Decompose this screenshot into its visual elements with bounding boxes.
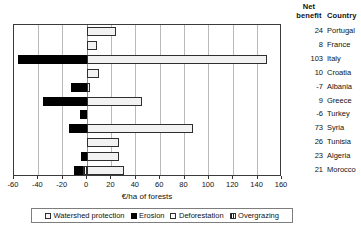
x-tick-0 [86, 176, 87, 179]
x-tick-label-160: 160 [268, 180, 294, 189]
net-benefit-header-line1: Net [289, 2, 329, 11]
net-benefit-value: 24 [289, 26, 323, 35]
bar-segment-erosion [71, 83, 87, 92]
legend-label-watershed: Watershed protection [54, 211, 125, 220]
net-benefit-value: 10 [289, 68, 323, 77]
country-label: Algeria [327, 151, 361, 160]
bar-segment-erosion [18, 55, 87, 64]
net-benefit-value: 103 [289, 54, 323, 63]
x-tick-label--20: -20 [49, 180, 75, 189]
x-tick-160 [281, 176, 282, 179]
bar-row [14, 166, 280, 175]
x-tick-label--40: -40 [24, 180, 50, 189]
bar-row [14, 152, 280, 161]
legend-swatch-deforestation [170, 213, 176, 219]
net-benefit-value: 73 [289, 123, 323, 132]
bar-segment-watershed [87, 138, 119, 147]
x-axis-title: €/ha of forests [13, 192, 281, 202]
x-tick--40 [37, 176, 38, 179]
net-benefit-value: -7 [289, 82, 323, 91]
bar-segment-erosion [80, 110, 87, 119]
x-tick-label-80: 80 [171, 180, 197, 189]
net-benefit-value: 26 [289, 137, 323, 146]
country-label: France [327, 40, 361, 49]
bars-layer [14, 25, 280, 175]
x-tick--60 [13, 176, 14, 179]
x-tick-label-60: 60 [146, 180, 172, 189]
country-label: Tunisia [327, 137, 361, 146]
bar-segment-erosion [69, 124, 87, 133]
x-tick-20 [110, 176, 111, 179]
country-label: Croatia [327, 68, 361, 77]
country-column-header: Country [327, 11, 361, 20]
legend-item-erosion: Erosion [131, 211, 165, 220]
chart-legend: Watershed protectionErosionDeforestation… [31, 208, 293, 223]
x-tick-40 [135, 176, 136, 179]
x-tick-140 [257, 176, 258, 179]
x-tick-label--60: -60 [0, 180, 26, 189]
x-tick-100 [208, 176, 209, 179]
bar-segment-watershed [87, 69, 99, 78]
bar-segment-watershed [87, 55, 267, 64]
bar-row [14, 97, 280, 106]
x-tick-60 [159, 176, 160, 179]
bar-row [14, 110, 280, 119]
bar-row [14, 55, 280, 64]
bar-segment-erosion [74, 166, 84, 175]
x-tick-120 [232, 176, 233, 179]
legend-label-deforestation: Deforestation [179, 211, 224, 220]
bar-segment-watershed [87, 124, 193, 133]
legend-swatch-erosion [131, 213, 137, 219]
bar-segment-erosion [43, 97, 87, 106]
x-tick-label-140: 140 [244, 180, 270, 189]
legend-item-watershed: Watershed protection [45, 211, 125, 220]
x-tick-label-20: 20 [97, 180, 123, 189]
x-tick-label-0: 0 [73, 180, 99, 189]
bar-row [14, 27, 280, 36]
x-tick-80 [184, 176, 185, 179]
country-label: Greece [327, 96, 361, 105]
bar-segment-watershed [87, 27, 116, 36]
x-tick--20 [62, 176, 63, 179]
bar-segment-watershed [87, 83, 89, 92]
net-benefit-forests-chart: Net benefit Country -60-40-2002040608010… [0, 0, 361, 230]
net-benefit-header-line2: benefit [289, 11, 329, 20]
country-label: Turkey [327, 109, 361, 118]
net-benefit-column-header: Net benefit [289, 2, 329, 20]
bar-row [14, 69, 280, 78]
net-benefit-value: 23 [289, 151, 323, 160]
country-label: Portugal [327, 26, 361, 35]
net-benefit-value: 8 [289, 40, 323, 49]
x-tick-label-40: 40 [122, 180, 148, 189]
legend-swatch-watershed [45, 213, 51, 219]
bar-row [14, 138, 280, 147]
legend-item-overgrazing: Overgrazing [230, 211, 279, 220]
legend-label-overgrazing: Overgrazing [238, 211, 279, 220]
net-benefit-value: 21 [289, 165, 323, 174]
x-tick-label-120: 120 [219, 180, 245, 189]
plot-area [13, 24, 281, 176]
country-label: Italy [327, 54, 361, 63]
net-benefit-value: -6 [289, 109, 323, 118]
bar-segment-watershed [87, 166, 124, 175]
bar-row [14, 83, 280, 92]
legend-item-deforestation: Deforestation [170, 211, 223, 220]
country-label: Syria [327, 123, 361, 132]
bar-row [14, 124, 280, 133]
legend-swatch-overgrazing [230, 213, 236, 219]
bar-segment-watershed [87, 41, 97, 50]
bar-row [14, 41, 280, 50]
country-label: Albania [327, 82, 361, 91]
x-tick-label-100: 100 [195, 180, 221, 189]
country-label: Morocco [327, 165, 361, 174]
net-benefit-value: 9 [289, 96, 323, 105]
bar-segment-watershed [87, 152, 119, 161]
bar-segment-watershed [87, 97, 142, 106]
legend-label-erosion: Erosion [139, 211, 164, 220]
